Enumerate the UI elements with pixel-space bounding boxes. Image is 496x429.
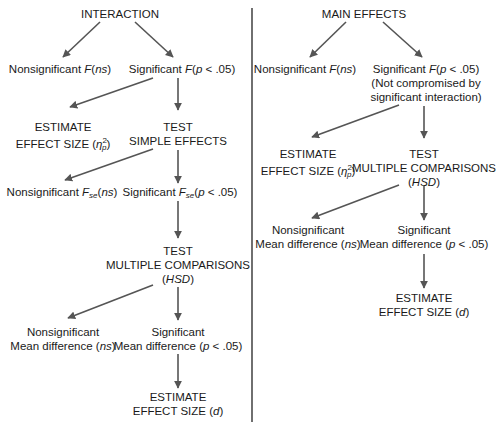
- right-significant-f: Significant F(p < .05) (Not compromised …: [370, 62, 481, 104]
- left-significant-f: Significant F(p < .05): [129, 62, 235, 76]
- right-significant-mean: Significant Mean difference (p < .05): [360, 223, 489, 251]
- left-estimate-eta: ESTIMATE EFFECT SIZE (η2p): [16, 120, 110, 155]
- right-estimate-d: ESTIMATE EFFECT SIZE (d): [379, 291, 470, 319]
- right-estimate-eta: ESTIMATE EFFECT SIZE (η2p): [261, 147, 355, 182]
- left-significant-mean: Significant Mean difference (p < .05): [114, 325, 243, 353]
- significant-fse: Significant Fse(p < .05): [123, 185, 238, 203]
- nonsignificant-fse: Nonsignificant Fse(ns): [7, 185, 118, 203]
- right-test-multiple-comparisons: TEST MULTIPLE COMPARISONS (HSD): [352, 147, 496, 189]
- right-nonsignificant-mean: Nonsignificant Mean difference (ns): [255, 223, 360, 251]
- interaction-root: INTERACTION: [81, 7, 159, 21]
- left-nonsignificant-mean: Nonsignificant Mean difference (ns): [10, 325, 115, 353]
- left-estimate-d: ESTIMATE EFFECT SIZE (d): [133, 390, 224, 418]
- main-effects-root: MAIN EFFECTS: [322, 7, 406, 21]
- left-nonsignificant-f: Nonsignificant F(ns): [9, 62, 111, 76]
- left-test-multiple-comparisons: TEST MULTIPLE COMPARISONS (HSD): [106, 244, 250, 286]
- right-nonsignificant-f: Nonsignificant F(ns): [254, 62, 356, 76]
- test-simple-effects: TEST SIMPLE EFFECTS: [129, 120, 227, 148]
